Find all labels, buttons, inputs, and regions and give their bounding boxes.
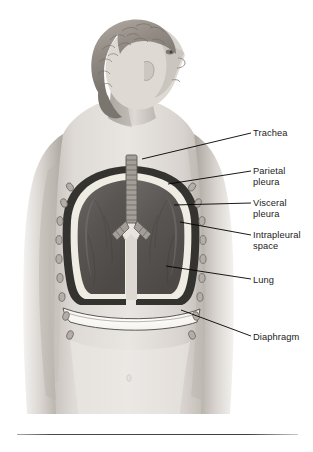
- abdomen-shading: [70, 340, 190, 414]
- illustration-page: Trachea Parietal pleura Visceral pleura …: [0, 0, 313, 452]
- label-trachea: Trachea: [253, 128, 287, 139]
- anatomy-illustration: [0, 0, 313, 452]
- body-figure: [23, 20, 234, 414]
- label-parietal-pleura: Parietal pleura: [253, 166, 285, 187]
- mediastinum: [126, 234, 137, 300]
- label-visceral-pleura: Visceral pleura: [253, 198, 287, 219]
- label-lung: Lung: [253, 275, 274, 286]
- eye-pupil: [170, 51, 173, 54]
- label-intrapleural-space: Intrapleural space: [253, 230, 301, 251]
- bottom-divider-rule: [17, 434, 298, 435]
- label-diaphragm: Diaphragm: [253, 332, 299, 343]
